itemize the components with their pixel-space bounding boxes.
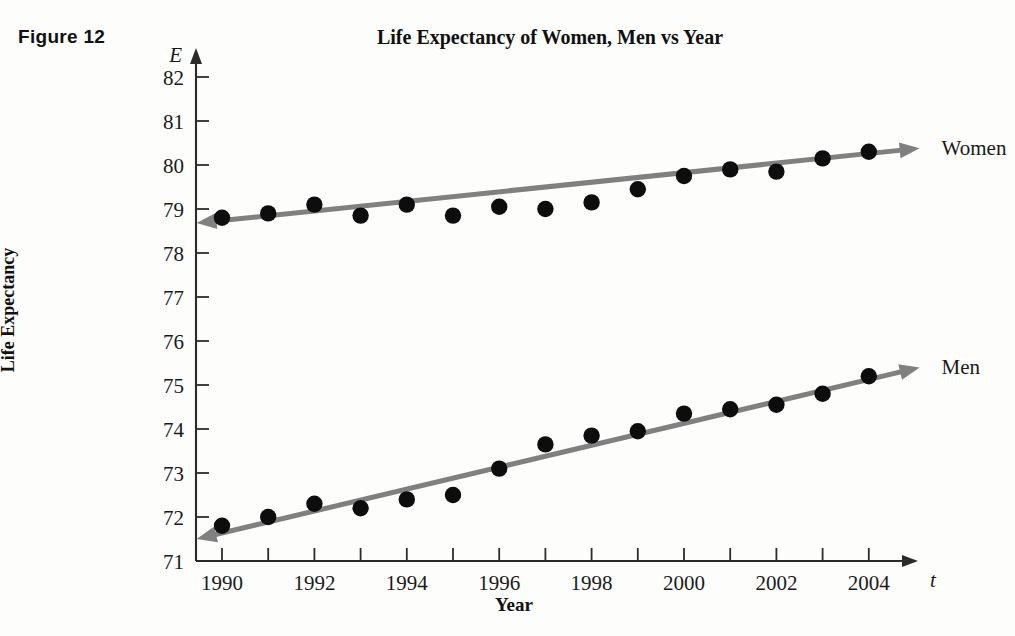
data-point <box>768 397 784 413</box>
x-axis-variable-symbol: t <box>930 568 937 592</box>
data-point <box>214 210 230 226</box>
data-point <box>445 207 461 223</box>
data-point <box>861 144 877 160</box>
y-axis-arrowhead <box>190 48 202 64</box>
data-point <box>260 205 276 221</box>
data-point <box>676 405 692 421</box>
x-axis-tick-label: 1992 <box>293 571 335 595</box>
y-axis-variable-symbol: E <box>168 43 182 67</box>
data-point <box>491 460 507 476</box>
axes-group <box>190 48 918 567</box>
y-axis-tick-label: 78 <box>163 242 184 266</box>
x-axis-tick-label: 2000 <box>663 571 705 595</box>
data-point <box>722 161 738 177</box>
series-label-men: Men <box>942 355 981 379</box>
data-point <box>352 500 368 516</box>
x-axis-tick-label: 2004 <box>848 571 891 595</box>
data-point <box>445 487 461 503</box>
data-point <box>768 163 784 179</box>
y-axis-tick-label: 72 <box>163 506 184 530</box>
data-point <box>537 436 553 452</box>
y-axis-tick-label: 74 <box>163 418 185 442</box>
data-point <box>814 150 830 166</box>
data-point <box>399 196 415 212</box>
y-axis-tick-label: 76 <box>163 330 184 354</box>
data-point <box>491 199 507 215</box>
data-point <box>583 427 599 443</box>
data-point <box>861 368 877 384</box>
data-point <box>306 496 322 512</box>
data-point <box>583 194 599 210</box>
y-axis-tick-label: 75 <box>163 374 184 398</box>
data-points-group <box>214 144 877 534</box>
y-axis-tick-label: 77 <box>163 286 184 310</box>
y-axis-tick-label: 73 <box>163 462 184 486</box>
y-axis-tick-label: 81 <box>163 110 184 134</box>
x-axis-tick-label: 1990 <box>201 571 243 595</box>
data-point <box>814 386 830 402</box>
chart-plot-area: 7172737475767778798081821990199219941996… <box>0 0 1015 636</box>
data-point <box>306 196 322 212</box>
data-point <box>399 491 415 507</box>
series-label-women: Women <box>942 136 1007 160</box>
x-axis-tick-label: 2002 <box>755 571 797 595</box>
x-axis-tick-label: 1998 <box>571 571 613 595</box>
x-axis-arrowhead <box>902 555 918 567</box>
x-axis-tick-label: 1994 <box>386 571 429 595</box>
data-point <box>537 201 553 217</box>
y-axis-tick-label: 82 <box>163 66 184 90</box>
data-point <box>352 207 368 223</box>
chart-text-labels: EtWomenMen <box>168 43 1007 592</box>
y-axis-tick-label: 79 <box>163 198 184 222</box>
y-axis-tick-label: 71 <box>163 550 184 574</box>
y-axis-tick-label: 80 <box>163 154 184 178</box>
data-point <box>676 168 692 184</box>
trend-arrow-right-women <box>899 142 920 158</box>
trendlines-group <box>197 142 920 542</box>
trend-arrow-right-men <box>898 364 919 380</box>
data-point <box>630 423 646 439</box>
data-point <box>722 401 738 417</box>
data-point <box>630 181 646 197</box>
data-point <box>214 518 230 534</box>
x-axis-tick-label: 1996 <box>478 571 520 595</box>
figure-container: Figure 12 Life Expectancy of Women, Men … <box>0 0 1015 636</box>
data-point <box>260 509 276 525</box>
